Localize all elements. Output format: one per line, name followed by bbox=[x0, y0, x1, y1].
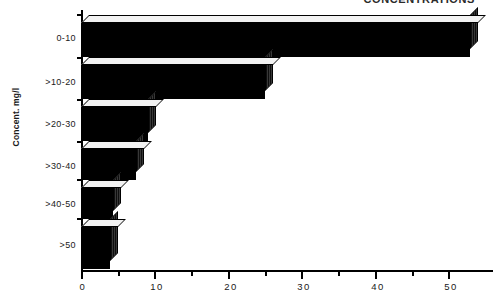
bar-front-face bbox=[81, 227, 110, 269]
x-axis-tick-label: 40 bbox=[371, 281, 385, 292]
y-axis-tick-label: >40-50 bbox=[0, 199, 76, 209]
bar-gt20-30 bbox=[81, 99, 156, 141]
bar-side-face bbox=[113, 172, 121, 211]
bar-top-face bbox=[81, 141, 152, 149]
x-axis-tick-label: 50 bbox=[444, 281, 458, 292]
bar-side-face bbox=[136, 133, 144, 172]
bar-0-10 bbox=[81, 15, 478, 57]
bar-side-face bbox=[148, 91, 156, 133]
bar-top-face bbox=[81, 219, 126, 227]
y-axis-tick-label: >30-40 bbox=[0, 161, 76, 171]
x-axis-tick-minor bbox=[118, 272, 120, 276]
y-axis-tick-label: >50 bbox=[0, 240, 76, 250]
x-axis-line bbox=[81, 270, 493, 272]
x-axis-tick-major bbox=[301, 272, 303, 279]
y-axis-tick-label: >10-20 bbox=[0, 77, 76, 87]
bar-top-face bbox=[81, 180, 129, 188]
x-axis-tick-major bbox=[81, 272, 83, 279]
x-axis-tick-major bbox=[375, 272, 377, 279]
bar-gt10-20 bbox=[81, 57, 273, 99]
y-axis-tick-labels: 0-10 >10-20 >20-30 >30-40 >40-50 >50 bbox=[0, 0, 76, 301]
chart-title: CONCENTRATIONS bbox=[364, 0, 475, 4]
bar-front-face bbox=[81, 149, 136, 180]
x-axis-tick-label: 10 bbox=[150, 281, 164, 292]
bar-gt50 bbox=[81, 219, 118, 269]
bar-top-face bbox=[81, 57, 281, 65]
x-axis-tick-major bbox=[448, 272, 450, 279]
x-axis-tick-minor bbox=[191, 272, 193, 276]
y-axis-tick-label: 0-10 bbox=[0, 33, 76, 43]
x-axis-tick-label: 0 bbox=[80, 281, 87, 292]
x-axis-tick-label: 20 bbox=[224, 281, 238, 292]
bar-top-face bbox=[81, 15, 486, 23]
bar-top-face bbox=[81, 99, 164, 107]
bar-side-face bbox=[265, 49, 273, 91]
x-axis-tick-minor bbox=[412, 272, 414, 276]
bar-front-face bbox=[81, 107, 148, 141]
bar-chart: CONCENTRATIONS Concent. mg/l 0-10 >10-20… bbox=[0, 0, 493, 301]
x-axis-tick-major bbox=[228, 272, 230, 279]
y-axis-tick-label: >20-30 bbox=[0, 119, 76, 129]
bar-front-face bbox=[81, 23, 470, 57]
x-axis-tick-label: 30 bbox=[297, 281, 311, 292]
bar-front-face bbox=[81, 65, 265, 99]
x-axis-tick-minor bbox=[265, 272, 267, 276]
bar-side-face bbox=[470, 7, 478, 49]
bar-gt30-40 bbox=[81, 141, 144, 180]
x-axis-tick-major bbox=[154, 272, 156, 279]
bar-front-face bbox=[81, 188, 113, 219]
x-axis-tick-minor bbox=[338, 272, 340, 276]
